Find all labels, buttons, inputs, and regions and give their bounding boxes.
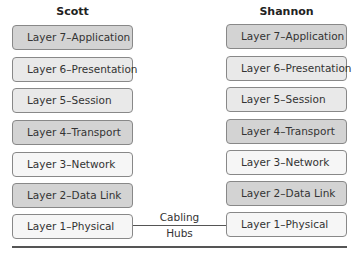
scott-layer-6: Layer 6–Presentation	[12, 57, 133, 82]
connector-label-hubs: Hubs	[133, 227, 226, 239]
shannon-layer-7: Layer 7–Application	[226, 24, 347, 49]
host-title-scott: Scott	[12, 5, 133, 18]
shannon-layer-2: Layer 2–Data Link	[226, 181, 347, 206]
baseline-divider	[12, 246, 347, 248]
shannon-layer-1: Layer 1–Physical	[226, 212, 347, 237]
physical-connection-line	[133, 225, 226, 226]
scott-layer-1: Layer 1–Physical	[12, 214, 133, 239]
shannon-layer-3: Layer 3–Network	[226, 150, 347, 175]
connector-label-cabling: Cabling	[133, 211, 226, 223]
shannon-layer-5: Layer 5–Session	[226, 87, 347, 112]
scott-layer-2: Layer 2–Data Link	[12, 183, 133, 208]
host-title-shannon: Shannon	[226, 5, 347, 18]
scott-layer-7: Layer 7–Application	[12, 25, 133, 50]
scott-layer-4: Layer 4–Transport	[12, 120, 133, 145]
scott-layer-5: Layer 5–Session	[12, 88, 133, 113]
shannon-layer-4: Layer 4–Transport	[226, 119, 347, 144]
scott-layer-3: Layer 3–Network	[12, 152, 133, 177]
shannon-layer-6: Layer 6–Presentation	[226, 56, 347, 81]
